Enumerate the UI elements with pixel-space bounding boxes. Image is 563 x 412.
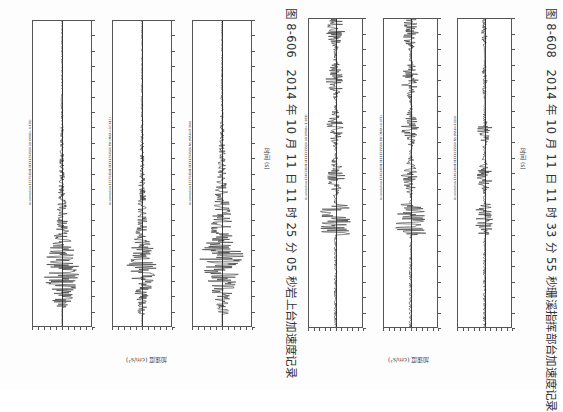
x-axis-label: 时间 (s)	[519, 148, 528, 170]
amplitude-axis-ticks	[457, 328, 512, 340]
amplitude-axis-ticks	[308, 328, 363, 340]
panel-title: Acceleration 13403414101111335514 UD (MA…	[304, 115, 308, 200]
panel-title: Acceleration 13403414101111335514 EW (MA…	[379, 115, 383, 200]
y-axis-label: 加速度 (cm/s²)	[388, 356, 429, 365]
waveform-panel-ew	[383, 18, 438, 328]
time-axis-ticks	[512, 18, 520, 328]
time-axis-ticks	[438, 18, 446, 328]
figure-caption-8-608: 图 8-608 2014 年 10 月 11 日 11 时 33 分 55 秒珊…	[544, 8, 560, 412]
figure-caption-8-606: 图 8-606 2014 年 10 月 11 日 11 时 25 分 05 秒岩…	[284, 8, 300, 378]
amplitude-axis-ticks	[383, 328, 438, 340]
waveform-trace	[458, 19, 511, 327]
waveform-panel-ud	[308, 18, 363, 328]
waveform-trace	[309, 19, 362, 327]
time-axis-ticks	[363, 18, 371, 328]
waveform-panel-ns	[457, 18, 512, 328]
panel-title: Acceleration 13403414101111335514 NS (MA…	[453, 116, 457, 200]
waveform-trace	[384, 19, 437, 327]
